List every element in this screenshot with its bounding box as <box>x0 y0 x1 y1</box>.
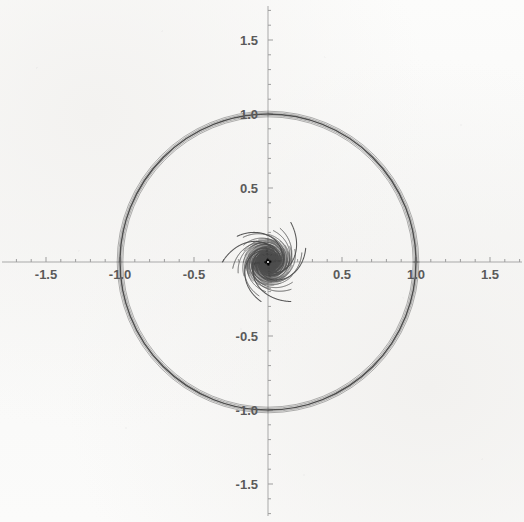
spiral-plot-figure: -1.5-1.0-0.50.51.01.51.51.00.5-0.5-1.0-1… <box>0 0 524 522</box>
x-tick-label: 0.5 <box>333 267 351 282</box>
y-tick-label: -0.5 <box>236 329 258 344</box>
x-tick-label: 1.5 <box>481 267 499 282</box>
y-tick-label: 1.5 <box>240 33 258 48</box>
y-tick-label: -1.0 <box>236 403 258 418</box>
y-tick-label: 1.0 <box>240 107 258 122</box>
y-tick-label: 0.5 <box>240 181 258 196</box>
plot-canvas: -1.5-1.0-0.50.51.01.51.51.00.5-0.5-1.0-1… <box>0 0 524 522</box>
x-tick-label: -1.0 <box>109 267 131 282</box>
y-tick-label: -1.5 <box>236 477 258 492</box>
x-tick-label: 1.0 <box>407 267 425 282</box>
x-tick-label: -0.5 <box>183 267 205 282</box>
x-tick-label: -1.5 <box>35 267 57 282</box>
